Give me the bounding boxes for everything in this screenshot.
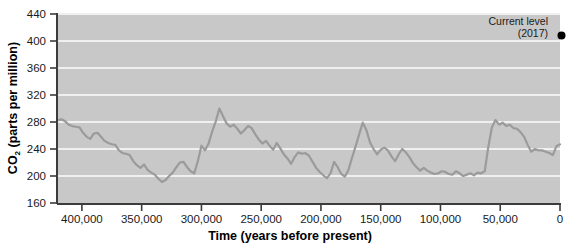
x-tick-label-150000: 150,000 (360, 213, 402, 225)
y-axis-title-rest: (parts per million) (6, 42, 20, 151)
x-tick-label-200000: 200,000 (300, 213, 342, 225)
y-tick-label-360: 360 (27, 62, 46, 74)
x-tick-label-300000: 300,000 (181, 213, 223, 225)
x-tick-label-50000: 50,000 (483, 213, 518, 225)
chart-canvas: 160200240280320360400440 400,000350,0003… (0, 0, 582, 250)
y-tick-label-320: 320 (27, 89, 46, 101)
current-level-label-line2: (2017) (518, 27, 548, 39)
x-tick-label-100000: 100,000 (420, 213, 462, 225)
current-level-label-line1: Current level (488, 15, 548, 27)
y-tick-label-240: 240 (27, 143, 46, 155)
y-tick-label-160: 160 (27, 197, 46, 209)
current-level-dot (558, 32, 566, 40)
y-tick-label-400: 400 (27, 35, 46, 47)
x-tick-label-350000: 350,000 (121, 213, 163, 225)
y-tick-label-200: 200 (27, 170, 46, 182)
x-tick-label-250000: 250,000 (240, 213, 282, 225)
x-axis-title: Time (years before present) (208, 229, 372, 243)
x-tick-label-0: 0 (557, 213, 563, 225)
x-tick-label-400000: 400,000 (61, 213, 103, 225)
plot-area-background (58, 14, 560, 203)
y-axis-title-base: CO (6, 155, 20, 174)
y-tick-label-280: 280 (27, 116, 46, 128)
co2-ice-core-chart: 160200240280320360400440 400,000350,0003… (0, 0, 582, 250)
y-tick-label-440: 440 (27, 8, 46, 20)
